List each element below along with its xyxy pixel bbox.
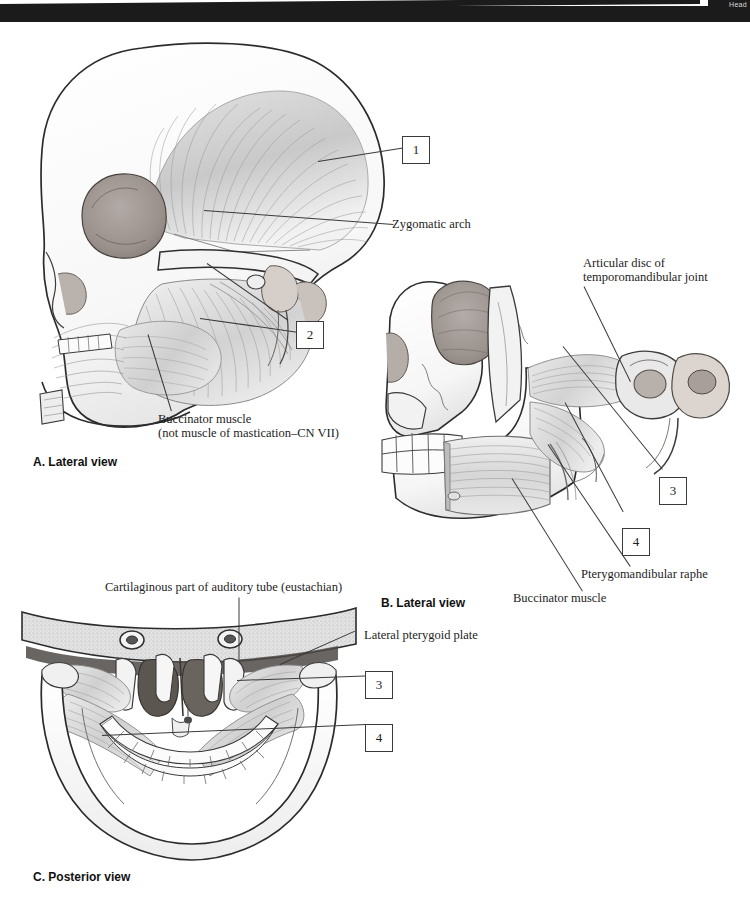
callout-a1[interactable]: 1 bbox=[402, 136, 430, 164]
textbook-page: Head bbox=[0, 0, 750, 902]
label-pterygomandibular-raphe: Pterygomandibular raphe bbox=[581, 567, 708, 581]
callout-c3[interactable]: 3 bbox=[365, 671, 393, 699]
callout-a2[interactable]: 2 bbox=[296, 321, 324, 349]
figure-b-lateral-pterygoid bbox=[378, 272, 750, 584]
label-buccinator-a-line1: Buccinator muscle bbox=[158, 412, 251, 426]
leader-cartilaginous-auditory-tube bbox=[239, 598, 240, 660]
figure-a-lateral-skull bbox=[24, 38, 404, 458]
caption-panel-c: C. Posterior view bbox=[33, 870, 130, 884]
figure-c-posterior-skull bbox=[20, 604, 360, 864]
header-rule bbox=[0, 6, 750, 22]
label-articular-disc-line1: Articular disc of bbox=[583, 256, 665, 270]
callout-b4[interactable]: 4 bbox=[622, 528, 650, 556]
callout-c3-text: 3 bbox=[376, 677, 383, 693]
label-cartilaginous-auditory-tube: Cartilaginous part of auditory tube (eus… bbox=[105, 580, 342, 594]
label-articular-disc-line2: temporomandibular joint bbox=[583, 270, 708, 284]
label-buccinator-b: Buccinator muscle bbox=[513, 591, 606, 605]
caption-panel-a: A. Lateral view bbox=[33, 455, 117, 469]
callout-b3-text: 3 bbox=[670, 483, 677, 499]
label-buccinator-a-line2: (not muscle of mastication–CN VII) bbox=[158, 426, 339, 440]
callout-c4-text: 4 bbox=[376, 730, 383, 746]
caption-panel-b: B. Lateral view bbox=[381, 596, 465, 610]
callout-a2-text: 2 bbox=[307, 327, 314, 343]
callout-a1-text: 1 bbox=[413, 142, 420, 158]
label-lateral-pterygoid-plate: Lateral pterygoid plate bbox=[364, 628, 478, 642]
label-zygomatic-arch: Zygomatic arch bbox=[392, 217, 471, 231]
callout-b3[interactable]: 3 bbox=[659, 477, 687, 505]
chapter-tab-label: Head bbox=[729, 1, 747, 8]
callout-c4[interactable]: 4 bbox=[365, 724, 393, 752]
chapter-tab: Head bbox=[708, 0, 750, 22]
callout-b4-text: 4 bbox=[633, 534, 640, 550]
